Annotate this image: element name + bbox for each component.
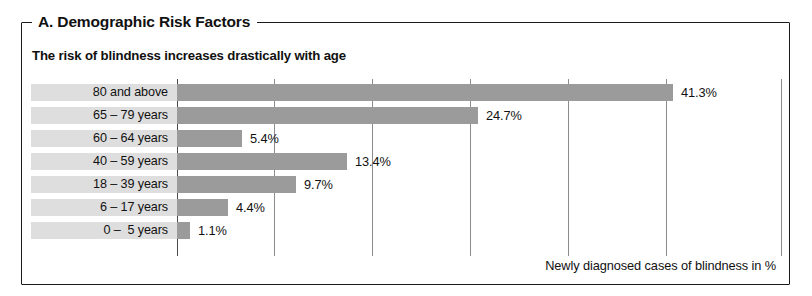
category-label: 18 – 39 years [31, 176, 177, 193]
bar-value-label: 1.1% [198, 222, 227, 239]
bar [177, 199, 228, 216]
gridline [470, 79, 471, 256]
axis-caption: Newly diagnosed cases of blindness in % [545, 258, 776, 273]
bar-value-label: 9.7% [304, 176, 333, 193]
bar-value-label: 41.3% [681, 84, 717, 101]
bar [177, 222, 190, 239]
category-label: 40 – 59 years [31, 153, 177, 170]
category-label: 6 – 17 years [31, 199, 177, 216]
bar-value-label: 24.7% [486, 107, 522, 124]
bar [177, 107, 478, 124]
bar-chart: 80 and above 41.3% 65 – 79 years 24.7% 6… [0, 0, 812, 296]
bar [177, 176, 296, 193]
bar-value-label: 5.4% [250, 130, 279, 147]
gridline [568, 79, 569, 256]
bar [177, 153, 347, 170]
category-label: 65 – 79 years [31, 107, 177, 124]
gridline [781, 79, 782, 256]
bar-value-label: 4.4% [236, 199, 265, 216]
category-label: 80 and above [31, 84, 177, 101]
category-label: 0 – 5 years [31, 222, 177, 239]
bar [177, 84, 673, 101]
category-label: 60 – 64 years [31, 130, 177, 147]
bar-value-label: 13.4% [355, 153, 391, 170]
gridline [666, 79, 667, 256]
bar [177, 130, 242, 147]
